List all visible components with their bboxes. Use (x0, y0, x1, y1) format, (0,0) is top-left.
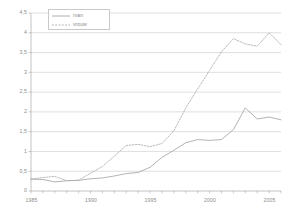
y-axis-tick-label: 3 (8, 70, 27, 75)
y-axis-tick-label: 4,5 (8, 10, 27, 15)
y-axis-tick-label: 0 (8, 188, 27, 193)
x-axis-tick-label: 2005 (264, 198, 276, 203)
y-axis-tick-label: 2,5 (8, 89, 27, 94)
y-axis-tick-label: 1,5 (8, 129, 27, 134)
legend-item-man: man (52, 12, 83, 20)
dotted-line-swatch (52, 22, 70, 28)
series-line-vrouw (31, 33, 281, 181)
x-axis-tick-label: 1990 (85, 198, 97, 203)
y-axis-tick-label: 3,5 (8, 50, 27, 55)
legend-item-vrouw: vrouw (52, 21, 87, 29)
gridlines (31, 13, 281, 171)
x-axis-tick-label: 2000 (204, 198, 216, 203)
y-axis-tick-label: 0,5 (8, 169, 27, 174)
solid-line-swatch (52, 13, 70, 19)
y-axis-tick-label: 4 (8, 30, 27, 35)
legend-label-vrouw: vrouw (73, 22, 87, 27)
x-axis-ticks (29, 13, 281, 193)
x-axis-tick-label: 1985 (26, 198, 38, 203)
legend-label-man: man (73, 13, 83, 18)
y-axis-tick-label: 1 (8, 149, 27, 154)
chart-plot-area (0, 0, 288, 219)
x-axis-tick-label: 1995 (145, 198, 157, 203)
line-chart: 00,511,522,533,544,5 1985199019952000200… (0, 0, 288, 219)
y-axis-tick-label: 2 (8, 109, 27, 114)
chart-legend: man vrouw (48, 9, 110, 30)
